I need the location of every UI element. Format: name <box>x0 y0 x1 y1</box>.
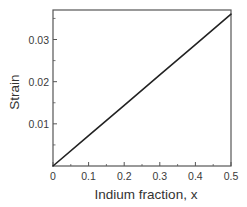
x-tick-label: 0.5 <box>224 170 239 182</box>
strain-line <box>53 14 231 166</box>
strain-vs-indium-chart: 00.10.20.30.40.5 0.010.020.03 Indium fra… <box>0 0 247 207</box>
x-tick-label: 0.2 <box>117 170 132 182</box>
x-axis: 00.10.20.30.40.5 <box>50 162 238 182</box>
x-tick-label: 0 <box>50 170 56 182</box>
x-tick-label: 0.1 <box>81 170 96 182</box>
y-tick-label: 0.01 <box>29 118 50 130</box>
x-tick-label: 0.4 <box>188 170 203 182</box>
y-tick-label: 0.02 <box>29 76 50 88</box>
series-layer <box>53 14 231 166</box>
x-tick-label: 0.3 <box>152 170 167 182</box>
x-axis-title: Indium fraction, x <box>95 187 198 202</box>
y-tick-label: 0.03 <box>29 34 50 46</box>
y-axis-title: Strain <box>7 74 22 109</box>
